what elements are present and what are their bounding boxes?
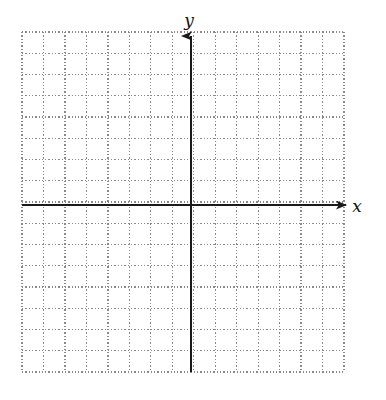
figure-background bbox=[0, 0, 386, 400]
y-axis-label: y bbox=[183, 10, 194, 30]
graph-figure: x y bbox=[0, 0, 386, 400]
coordinate-plane-svg: x y bbox=[0, 0, 386, 400]
x-axis-label: x bbox=[352, 196, 362, 216]
